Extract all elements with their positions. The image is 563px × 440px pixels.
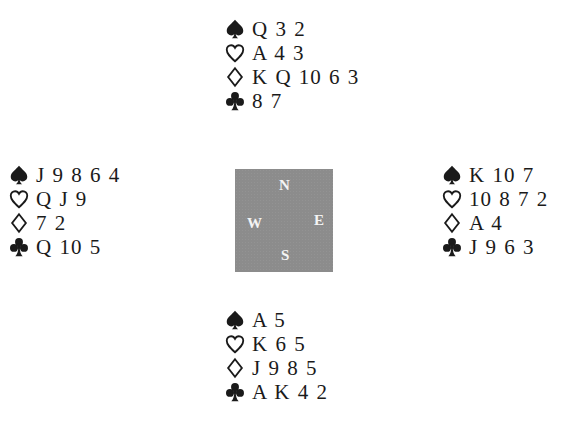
west-diamonds-row: 7 2 xyxy=(8,211,120,235)
spade-icon xyxy=(224,18,246,40)
south-clubs-row: A K 4 2 xyxy=(224,380,328,404)
south-clubs-cards: A K 4 2 xyxy=(252,380,328,404)
north-clubs-row: 8 7 xyxy=(224,89,359,113)
north-spades-cards: Q 3 2 xyxy=(252,17,306,41)
east-diamonds-cards: A 4 xyxy=(469,211,503,235)
west-diamonds-cards: 7 2 xyxy=(36,211,66,235)
east-hand: K 10 7 10 8 7 2 A 4 J 9 6 3 xyxy=(441,163,548,259)
south-spades-row: A 5 xyxy=(224,308,328,332)
heart-icon xyxy=(224,333,246,355)
east-hearts-row: 10 8 7 2 xyxy=(441,187,548,211)
south-diamonds-cards: J 9 8 5 xyxy=(252,356,317,380)
south-hearts-row: K 6 5 xyxy=(224,332,328,356)
club-icon xyxy=(441,236,463,258)
east-clubs-row: J 9 6 3 xyxy=(441,235,548,259)
north-hearts-cards: A 4 3 xyxy=(252,41,305,65)
heart-icon xyxy=(441,188,463,210)
north-clubs-cards: 8 7 xyxy=(252,89,282,113)
club-icon xyxy=(224,90,246,112)
west-spades-row: J 9 8 6 4 xyxy=(8,163,120,187)
east-hearts-cards: 10 8 7 2 xyxy=(469,187,548,211)
spade-icon xyxy=(224,309,246,331)
compass-east-label: E xyxy=(314,212,324,229)
south-hearts-cards: K 6 5 xyxy=(252,332,306,356)
compass-box: N W E S xyxy=(235,169,333,272)
diamond-icon xyxy=(8,212,30,234)
club-icon xyxy=(8,236,30,258)
west-hearts-row: Q J 9 xyxy=(8,187,120,211)
diamond-icon xyxy=(224,66,246,88)
north-hand: Q 3 2 A 4 3 K Q 10 6 3 8 7 xyxy=(224,17,359,113)
north-diamonds-row: K Q 10 6 3 xyxy=(224,65,359,89)
north-diamonds-cards: K Q 10 6 3 xyxy=(252,65,359,89)
diamond-icon xyxy=(441,212,463,234)
compass-west-label: W xyxy=(247,215,262,232)
west-hearts-cards: Q J 9 xyxy=(36,187,87,211)
compass-north-label: N xyxy=(279,177,290,194)
east-diamonds-row: A 4 xyxy=(441,211,548,235)
east-clubs-cards: J 9 6 3 xyxy=(469,235,534,259)
club-icon xyxy=(224,381,246,403)
west-clubs-row: Q 10 5 xyxy=(8,235,120,259)
north-spades-row: Q 3 2 xyxy=(224,17,359,41)
spade-icon xyxy=(441,164,463,186)
south-diamonds-row: J 9 8 5 xyxy=(224,356,328,380)
west-spades-cards: J 9 8 6 4 xyxy=(36,163,120,187)
diamond-icon xyxy=(224,357,246,379)
south-hand: A 5 K 6 5 J 9 8 5 A K 4 2 xyxy=(224,308,328,404)
heart-icon xyxy=(8,188,30,210)
heart-icon xyxy=(224,42,246,64)
spade-icon xyxy=(8,164,30,186)
compass-south-label: S xyxy=(281,247,289,264)
west-hand: J 9 8 6 4 Q J 9 7 2 Q 10 5 xyxy=(8,163,120,259)
south-spades-cards: A 5 xyxy=(252,308,286,332)
north-hearts-row: A 4 3 xyxy=(224,41,359,65)
east-spades-row: K 10 7 xyxy=(441,163,548,187)
east-spades-cards: K 10 7 xyxy=(469,163,534,187)
west-clubs-cards: Q 10 5 xyxy=(36,235,101,259)
